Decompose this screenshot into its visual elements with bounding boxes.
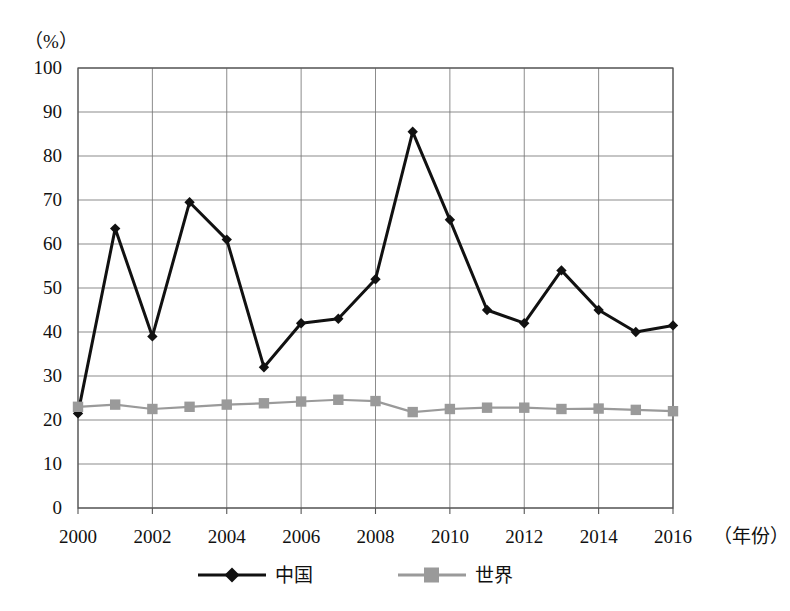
legend-label-world: 世界 (475, 565, 513, 585)
chart-legend: 中国 世界 (0, 560, 790, 600)
plot-area (0, 0, 790, 611)
legend-key-china-diamond-icon (196, 564, 268, 586)
legend-key-world-square-icon (396, 564, 468, 586)
legend-entry-china[interactable]: 中国 (196, 564, 313, 586)
legend-entry-world[interactable]: 世界 (396, 564, 513, 586)
chart-figure: （%） 0102030405060708090100 2000200220042… (0, 0, 790, 611)
legend-label-china: 中国 (275, 565, 313, 585)
